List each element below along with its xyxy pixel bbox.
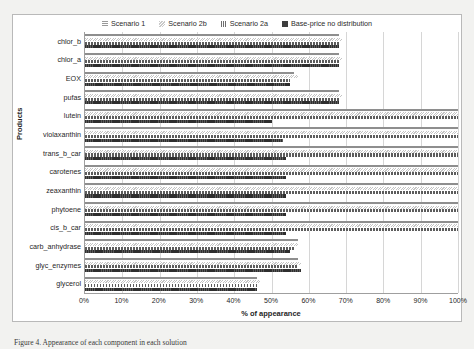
bar-glyc_enzymes-series-3 bbox=[85, 265, 298, 268]
x-tick-80: 80% bbox=[376, 297, 390, 304]
x-tick-90: 90% bbox=[414, 297, 428, 304]
x-tick-40: 40% bbox=[227, 297, 241, 304]
scenario-2b-swatch-icon bbox=[159, 21, 165, 27]
bar-trans_b_car-series-2 bbox=[85, 150, 458, 153]
bar-EOX-series-3 bbox=[85, 79, 290, 82]
legend-item-3[interactable]: Scenario 2a bbox=[221, 19, 268, 28]
bar-carotenes-series-2 bbox=[85, 168, 458, 171]
bar-chlor_a-series-3 bbox=[85, 60, 339, 63]
bar-phytoene-series-2 bbox=[85, 206, 458, 209]
bar-EOX-series-4 bbox=[85, 83, 290, 86]
bar-pufas-series-1 bbox=[85, 90, 339, 93]
bar-cis_b_car-series-1 bbox=[85, 221, 458, 224]
x-tick-20: 20% bbox=[152, 297, 166, 304]
legend-item-1[interactable]: Scenario 1 bbox=[102, 19, 145, 28]
bar-phytoene-series-4 bbox=[85, 213, 286, 216]
y-tick-cis_b_car: cis_b_car bbox=[25, 218, 84, 237]
bar-group-zeaxanthin bbox=[85, 181, 458, 200]
bar-trans_b_car-series-1 bbox=[85, 146, 458, 149]
bar-phytoene-series-3 bbox=[85, 209, 458, 212]
chart-legend: Scenario 1Scenario 2bScenario 2aBase-pri… bbox=[13, 19, 461, 28]
bar-lutein-series-1 bbox=[85, 109, 458, 112]
x-axis: 0%10%20%30%40%50%60%70%80%90%100% % of a… bbox=[84, 293, 458, 323]
bar-group-glycerol bbox=[85, 274, 458, 293]
bar-trans_b_car-series-3 bbox=[85, 153, 458, 156]
y-axis-title: Products bbox=[15, 107, 24, 140]
bar-violaxanthin-series-2 bbox=[85, 131, 458, 134]
bar-group-chlor_a bbox=[85, 51, 458, 70]
bar-zeaxanthin-series-2 bbox=[85, 187, 458, 190]
bar-chlor_a-series-2 bbox=[85, 57, 342, 60]
bar-group-phytoene bbox=[85, 200, 458, 219]
bar-glyc_enzymes-series-2 bbox=[85, 262, 301, 265]
bar-glycerol-series-4 bbox=[85, 288, 257, 291]
bar-EOX-series-2 bbox=[85, 75, 298, 78]
bar-chlor_b-series-3 bbox=[85, 42, 339, 45]
bar-lutein-series-3 bbox=[85, 116, 458, 119]
legend-item-2[interactable]: Scenario 2b bbox=[159, 19, 206, 28]
x-tick-30: 30% bbox=[189, 297, 203, 304]
y-tick-glyc_enzymes: glyc_enzymes bbox=[25, 256, 84, 275]
bar-pufas-series-4 bbox=[85, 101, 339, 104]
bar-violaxanthin-series-4 bbox=[85, 139, 283, 142]
bar-zeaxanthin-series-4 bbox=[85, 194, 286, 197]
legend-item-4[interactable]: Base-price no distribution bbox=[282, 19, 372, 28]
bar-carb_anhydrase-series-3 bbox=[85, 247, 294, 250]
bar-carb_anhydrase-series-1 bbox=[85, 239, 298, 242]
bar-chlor_a-series-4 bbox=[85, 64, 339, 67]
y-tick-lutein: lutein bbox=[25, 107, 84, 126]
bar-group-carotenes bbox=[85, 162, 458, 181]
figure-caption: Figure 4. Appearance of each component i… bbox=[14, 338, 187, 347]
legend-item-label: Scenario 1 bbox=[111, 19, 145, 28]
bar-cis_b_car-series-4 bbox=[85, 232, 286, 235]
y-tick-chlor_a: chlor_a bbox=[25, 51, 84, 70]
scenario-2a-swatch-icon bbox=[221, 21, 227, 27]
base-price-swatch-icon bbox=[282, 21, 288, 27]
y-tick-carb_anhydrase: carb_anhydrase bbox=[25, 237, 84, 256]
bar-glyc_enzymes-series-4 bbox=[85, 269, 301, 272]
bar-carb_anhydrase-series-4 bbox=[85, 250, 290, 253]
bar-group-glyc_enzymes bbox=[85, 256, 458, 275]
chart-frame: Scenario 1Scenario 2bScenario 2aBase-pri… bbox=[12, 14, 462, 322]
bar-carb_anhydrase-series-2 bbox=[85, 243, 298, 246]
x-tick-70: 70% bbox=[339, 297, 353, 304]
figure-container: Scenario 1Scenario 2bScenario 2aBase-pri… bbox=[0, 0, 474, 349]
bar-chlor_a-series-1 bbox=[85, 53, 339, 56]
x-tick-60: 60% bbox=[301, 297, 315, 304]
y-tick-EOX: EOX bbox=[25, 69, 84, 88]
bar-EOX-series-1 bbox=[85, 72, 294, 75]
bar-cis_b_car-series-2 bbox=[85, 224, 458, 227]
bar-violaxanthin-series-1 bbox=[85, 127, 458, 130]
y-tick-trans_b_car: trans_b_car bbox=[25, 144, 84, 163]
bar-carotenes-series-3 bbox=[85, 172, 458, 175]
bar-chlor_b-series-2 bbox=[85, 38, 342, 41]
y-tick-phytoene: phytoene bbox=[25, 200, 84, 219]
bar-carotenes-series-4 bbox=[85, 176, 286, 179]
y-axis-tick-labels: chlor_bchlor_aEOXpufasluteinviolaxanthin… bbox=[25, 32, 84, 293]
y-tick-glycerol: glycerol bbox=[25, 274, 84, 293]
bar-lutein-series-4 bbox=[85, 120, 272, 123]
bar-trans_b_car-series-4 bbox=[85, 157, 286, 160]
bar-group-violaxanthin bbox=[85, 125, 458, 144]
bar-group-chlor_b bbox=[85, 32, 458, 51]
bar-group-EOX bbox=[85, 69, 458, 88]
bar-phytoene-series-1 bbox=[85, 202, 458, 205]
y-tick-violaxanthin: violaxanthin bbox=[25, 125, 84, 144]
bar-glyc_enzymes-series-1 bbox=[85, 258, 298, 261]
x-tick-50: 50% bbox=[264, 297, 278, 304]
legend-item-label: Scenario 2b bbox=[168, 19, 206, 28]
bar-glycerol-series-3 bbox=[85, 284, 257, 287]
bar-group-pufas bbox=[85, 88, 458, 107]
x-axis-title: % of appearance bbox=[84, 309, 458, 318]
bar-pufas-series-2 bbox=[85, 94, 342, 97]
gridline-100 bbox=[458, 32, 459, 293]
bar-rows bbox=[85, 32, 458, 293]
bar-cis_b_car-series-3 bbox=[85, 228, 458, 231]
x-tick-10: 10% bbox=[114, 297, 128, 304]
plot-area bbox=[84, 32, 458, 293]
bar-group-lutein bbox=[85, 107, 458, 126]
x-tick-100: 100% bbox=[449, 297, 467, 304]
legend-item-label: Base-price no distribution bbox=[291, 19, 372, 28]
bar-lutein-series-2 bbox=[85, 112, 458, 115]
scenario-1-swatch-icon bbox=[102, 21, 108, 27]
